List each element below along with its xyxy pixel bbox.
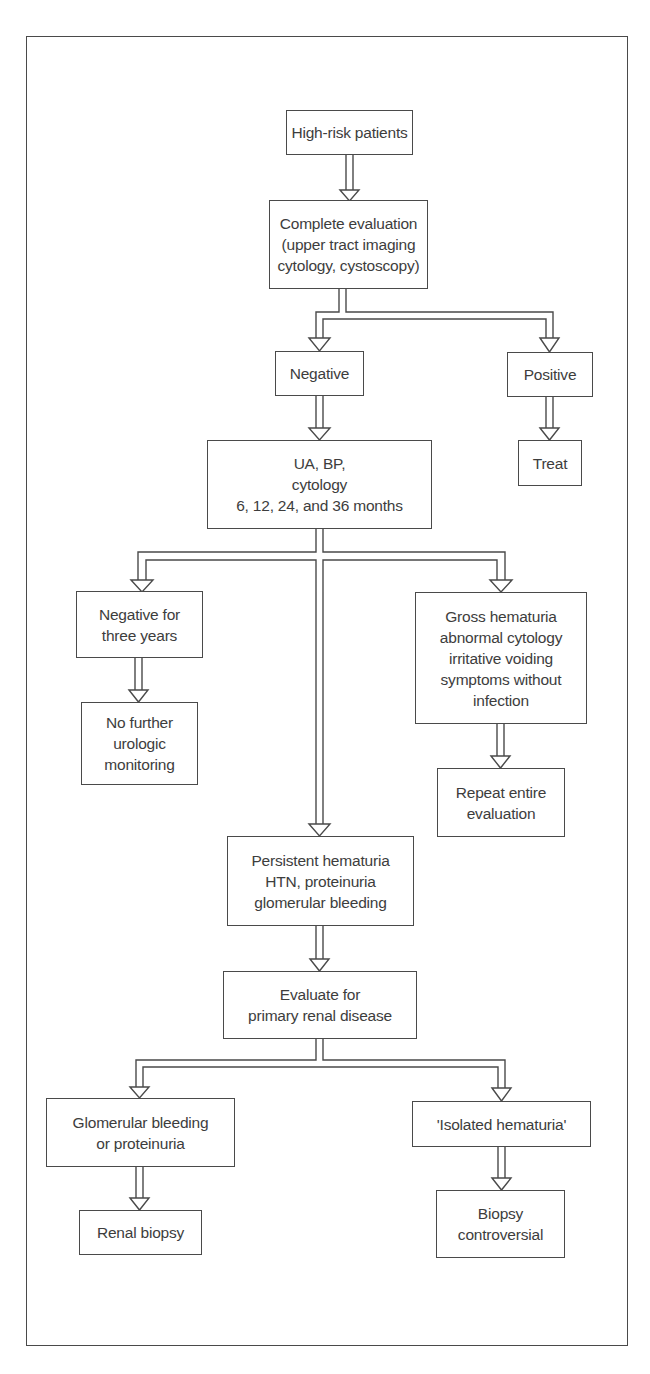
node-repeat-evaluation: Repeat entire evaluation xyxy=(437,768,565,837)
arrow-neg3-to-nofurther xyxy=(129,658,148,702)
node-positive: Positive xyxy=(507,352,593,397)
arrow-complete-split xyxy=(309,289,559,352)
arrow-persistent-to-evaluate xyxy=(310,926,329,971)
node-isolated-hematuria: 'Isolated hematuria' xyxy=(412,1101,591,1147)
node-high-risk-patients: High-risk patients xyxy=(286,110,413,155)
node-label: Negative xyxy=(290,363,350,384)
node-label: UA, BP, cytology 6, 12, 24, and 36 month… xyxy=(236,453,403,516)
node-negative: Negative xyxy=(275,351,364,396)
node-gross-hematuria: Gross hematuria abnormal cytology irrita… xyxy=(415,592,587,724)
node-label: Glomerular bleeding or proteinuria xyxy=(73,1112,209,1154)
node-label: Gross hematuria abnormal cytology irrita… xyxy=(440,606,562,711)
node-label: Persistent hematuria HTN, proteinuria gl… xyxy=(251,850,389,913)
node-negative-three-years: Negative for three years xyxy=(76,591,203,658)
arrow-gross-to-repeat xyxy=(491,724,510,768)
node-ua-bp-cytology: UA, BP, cytology 6, 12, 24, and 36 month… xyxy=(207,440,432,529)
node-no-further-monitoring: No further urologic monitoring xyxy=(81,702,198,785)
node-label: Negative for three years xyxy=(99,604,180,646)
arrow-positive-to-treat xyxy=(540,397,559,440)
node-biopsy-controversial: Biopsy controversial xyxy=(436,1190,565,1258)
arrow-highrisk-to-complete xyxy=(340,155,359,201)
node-label: Biopsy controversial xyxy=(458,1203,543,1245)
node-label: High-risk patients xyxy=(291,122,407,143)
node-label: Repeat entire evaluation xyxy=(456,782,546,824)
node-complete-evaluation: Complete evaluation (upper tract imaging… xyxy=(269,200,428,289)
node-treat: Treat xyxy=(518,440,582,486)
node-evaluate-primary-renal: Evaluate for primary renal disease xyxy=(223,971,417,1039)
node-label: Renal biopsy xyxy=(97,1222,184,1243)
arrow-glomerular-to-renal xyxy=(130,1167,149,1210)
node-label: 'Isolated hematuria' xyxy=(437,1114,566,1135)
node-label: Evaluate for primary renal disease xyxy=(248,984,392,1026)
node-label: Treat xyxy=(533,453,568,474)
node-renal-biopsy: Renal biopsy xyxy=(79,1210,202,1255)
arrow-negative-to-ua xyxy=(309,396,330,440)
node-glomerular-bleeding: Glomerular bleeding or proteinuria xyxy=(46,1098,235,1167)
node-label: No further urologic monitoring xyxy=(104,712,174,775)
node-label: Positive xyxy=(524,364,577,385)
arrow-evaluate-split xyxy=(130,1039,511,1101)
node-label: Complete evaluation (upper tract imaging… xyxy=(278,213,420,276)
arrow-isolated-to-controversial xyxy=(492,1147,511,1190)
node-persistent-hematuria: Persistent hematuria HTN, proteinuria gl… xyxy=(227,836,414,926)
